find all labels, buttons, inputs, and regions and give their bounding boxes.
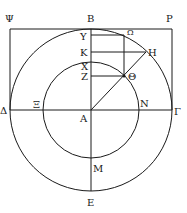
label-delta: Δ — [0, 105, 7, 116]
theta-point — [123, 75, 126, 78]
label-mu: M — [93, 163, 103, 174]
label-kappa: K — [80, 47, 88, 58]
label-rho: P — [166, 13, 173, 24]
label-theta: Θ — [128, 71, 136, 82]
label-alpha: A — [79, 113, 88, 124]
label-psi: Ψ — [5, 13, 14, 24]
label-epsilon: E — [87, 197, 94, 208]
label-zeta: Z — [81, 71, 88, 82]
geometric-figure: Ψ B P Υ Ω K H X Z Θ Δ Ξ N Γ A M E — [0, 0, 187, 213]
label-gamma: Γ — [174, 106, 181, 117]
label-eta: H — [148, 47, 157, 58]
label-nu: N — [140, 98, 149, 109]
label-omega: Ω — [127, 28, 134, 37]
diagram-svg: Ψ B P Υ Ω K H X Z Θ Δ Ξ N Γ A M E — [0, 0, 187, 213]
label-upsilon: Υ — [79, 31, 87, 42]
label-beta: B — [87, 13, 94, 24]
label-xi: Ξ — [33, 99, 40, 110]
